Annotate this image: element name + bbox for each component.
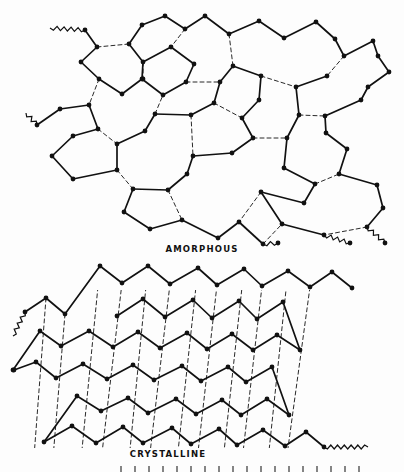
- chain-node: [282, 166, 287, 171]
- chain-bond: [165, 300, 193, 317]
- chain-bond: [326, 133, 347, 149]
- chain-bond: [52, 156, 73, 179]
- chain-bond: [46, 298, 65, 314]
- chain-node: [189, 113, 194, 118]
- chain-node: [359, 98, 364, 103]
- chain-node: [148, 227, 153, 232]
- crosslink-bond: [52, 314, 65, 470]
- chain-node: [239, 413, 244, 418]
- chain-node: [192, 62, 197, 67]
- chain-node: [383, 241, 388, 246]
- chain-node: [282, 36, 287, 41]
- chain-node: [216, 236, 221, 241]
- chain-bond: [129, 25, 142, 44]
- chain-bond: [205, 16, 229, 34]
- chain-bond: [150, 220, 182, 229]
- chain-bond: [288, 271, 310, 287]
- chain-bond: [285, 432, 306, 446]
- chain-bond: [339, 174, 377, 185]
- chain-node: [169, 45, 174, 50]
- chain-node: [185, 172, 190, 177]
- chain-node: [333, 37, 338, 42]
- chain-node: [270, 365, 275, 370]
- chain-node: [54, 376, 59, 381]
- chain-node: [50, 154, 55, 159]
- chain-bond: [142, 62, 143, 79]
- chain-bond: [143, 47, 171, 62]
- chain-bond: [228, 367, 246, 382]
- chain-node: [240, 116, 245, 121]
- polymer-structure-figure: AMORPHOUS CRYSTALLINE: [0, 0, 404, 472]
- chain-node: [280, 222, 285, 227]
- chain-bond: [148, 266, 170, 284]
- chain-node: [286, 269, 291, 274]
- chain-node: [168, 282, 173, 287]
- chain-node: [302, 201, 307, 206]
- chain-bond: [73, 170, 117, 179]
- chain-node: [218, 80, 223, 85]
- chain-bond: [287, 115, 299, 138]
- chain-node: [63, 312, 68, 317]
- chain-bond: [142, 79, 163, 95]
- crosslink-bond: [222, 269, 244, 470]
- chain-node: [365, 225, 370, 230]
- chain-node: [231, 64, 236, 69]
- chain-node: [75, 394, 80, 399]
- chain-node: [180, 218, 185, 223]
- chain-end-squiggle: [50, 26, 85, 31]
- chain-bond: [377, 185, 383, 208]
- chain-node: [12, 368, 17, 373]
- chain-bond: [77, 396, 101, 411]
- chain-bond: [182, 366, 201, 381]
- chain-node: [120, 92, 125, 97]
- chain-bond: [212, 301, 239, 318]
- chain-node: [87, 103, 92, 108]
- chain-bond: [282, 224, 324, 235]
- chain-node: [158, 346, 163, 351]
- chain-bond: [239, 301, 257, 319]
- chain-node: [308, 285, 313, 290]
- chain-bond: [259, 76, 261, 100]
- chain-bond: [241, 399, 267, 415]
- chain-node: [330, 270, 335, 275]
- chain-node: [141, 77, 146, 82]
- chain-bond: [73, 129, 98, 136]
- chain-node: [34, 360, 39, 365]
- chain-bond: [296, 76, 327, 87]
- chain-bond: [61, 331, 89, 346]
- chain-node: [87, 329, 92, 334]
- chain-bond: [325, 100, 361, 116]
- chain-bond: [163, 82, 186, 95]
- chain-node: [141, 441, 146, 446]
- chain-bond: [143, 428, 172, 443]
- chain-node: [180, 364, 185, 369]
- chain-node: [152, 378, 157, 383]
- chain-bond: [44, 426, 72, 442]
- chain-bond: [129, 44, 143, 62]
- chain-node: [260, 284, 265, 289]
- crosslink-bond: [315, 174, 339, 184]
- chain-node: [371, 39, 376, 44]
- chain-node: [294, 85, 299, 90]
- chain-node: [251, 348, 256, 353]
- chain-node: [212, 101, 217, 106]
- chain-bond: [325, 116, 326, 133]
- crosslink-bond: [324, 227, 367, 235]
- chain-node: [237, 299, 242, 304]
- chain-node: [350, 286, 355, 291]
- chain-node: [44, 296, 49, 301]
- crosslink-bond: [171, 29, 185, 47]
- chain-bond: [117, 299, 143, 316]
- chain-bond: [193, 300, 212, 318]
- chain-bond: [222, 400, 241, 415]
- cropped-caption-fragment: [120, 466, 360, 472]
- chain-bond: [344, 41, 373, 56]
- crosslink-bond: [327, 56, 344, 76]
- chain-node: [314, 20, 319, 25]
- chain-node: [115, 142, 120, 147]
- crystalline-label: CRYSTALLINE: [130, 449, 206, 459]
- chain-bond: [191, 103, 214, 115]
- chain-node: [95, 45, 100, 50]
- chain-node: [217, 427, 222, 432]
- chain-bond: [259, 21, 284, 38]
